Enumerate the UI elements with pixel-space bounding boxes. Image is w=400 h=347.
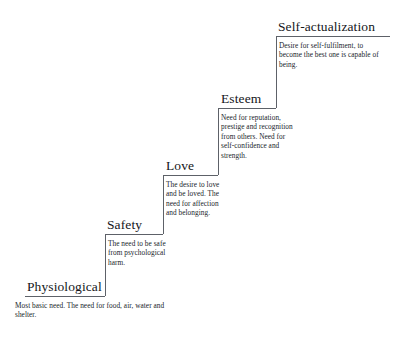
step-tread-physiological — [25, 296, 105, 297]
step-riser-esteem — [276, 36, 277, 108]
maslow-hierarchy-staircase-diagram: Physiological Most basic need. The need … — [0, 0, 400, 347]
step-tread-safety — [105, 234, 163, 235]
level-title-self-actualization: Self-actualization — [278, 19, 375, 34]
level-title-physiological: Physiological — [27, 279, 102, 294]
level-description-physiological: Most basic need. The need for food, air,… — [15, 301, 165, 320]
level-description-safety: The need to be safe from psychological h… — [108, 239, 166, 267]
level-description-love: The desire to love and be loved. The nee… — [166, 180, 228, 218]
step-tread-love — [163, 175, 218, 176]
level-title-safety: Safety — [107, 217, 142, 232]
level-title-esteem: Esteem — [221, 91, 261, 106]
step-riser-safety — [163, 175, 164, 234]
level-description-esteem: Need for reputation, prestige and recogn… — [221, 113, 293, 160]
level-title-love: Love — [166, 158, 194, 173]
step-riser-physiological — [105, 234, 106, 296]
step-tread-self-actualization — [276, 36, 390, 37]
level-description-self-actualization: Desire for self-fulfilment, to become th… — [279, 41, 387, 69]
step-tread-esteem — [218, 108, 276, 109]
step-riser-love — [218, 108, 219, 175]
